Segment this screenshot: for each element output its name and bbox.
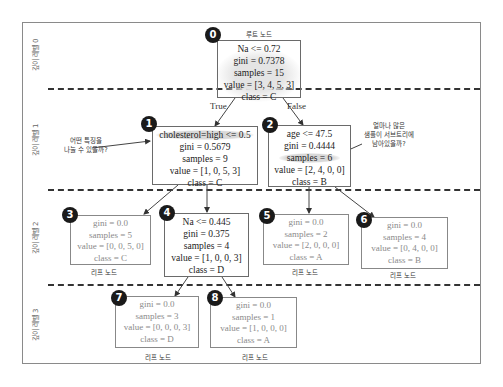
leaf-caption-7: 리프 노드 <box>145 352 171 362</box>
node-badge-7: 7 <box>111 290 127 306</box>
tree-node-6: gini = 0.0 samples = 4 value = [0, 4, 0,… <box>361 217 448 269</box>
leaf-caption-5: 리프 노드 <box>292 267 318 277</box>
tree-node-4: Na <= 0.445 gini = 0.375 samples = 4 val… <box>164 213 249 277</box>
tree-node-0: Na <= 0.72 gini = 0.7378 samples = 15 va… <box>217 40 301 98</box>
tree-node-3: gini = 0.0 samples = 5 value = [0, 0, 5,… <box>70 215 151 265</box>
leaf-caption-8: 리프 노드 <box>242 352 268 362</box>
edge-4-7 <box>175 277 188 296</box>
node-badge-2: 2 <box>262 117 278 133</box>
edge-4-8 <box>222 277 235 297</box>
tree-node-2: age <= 47.5 gini = 0.4444 samples = 6 va… <box>268 125 351 187</box>
annotation-split-question: 어떤 특징을 나눌 수 있을까? <box>64 137 108 155</box>
node-badge-8: 8 <box>207 290 223 306</box>
node-badge-6: 6 <box>356 212 372 228</box>
root-node-caption: 루트 노드 <box>246 29 272 39</box>
node-badge-5: 5 <box>259 208 275 224</box>
samples-highlight: samples = 6 <box>279 153 340 163</box>
node-badge-4: 4 <box>159 205 175 221</box>
annotation-samples-question: 얼마나 많은 샘플이 서브트리에 남아있을까? <box>364 122 414 149</box>
feature-highlight: cholesterol=high <= 0.5 <box>156 130 253 140</box>
leaf-caption-6: 리프 노드 <box>390 270 416 280</box>
tree-node-5: gini = 0.0 samples = 2 value = [2, 0, 0,… <box>263 214 349 265</box>
tree-node-1: cholesterol=high <= 0.5 gini = 0.5679 sa… <box>152 126 258 185</box>
leaf-caption-3: 리프 노드 <box>91 267 117 277</box>
node-badge-1: 1 <box>141 116 157 132</box>
tree-node-8: gini = 0.0 samples = 1 value = [1, 0, 0,… <box>210 297 297 348</box>
node-badge-0: 0 <box>205 27 221 43</box>
tree-node-7: gini = 0.0 samples = 3 value = [0, 0, 0,… <box>115 296 199 348</box>
node-badge-3: 3 <box>62 207 78 223</box>
